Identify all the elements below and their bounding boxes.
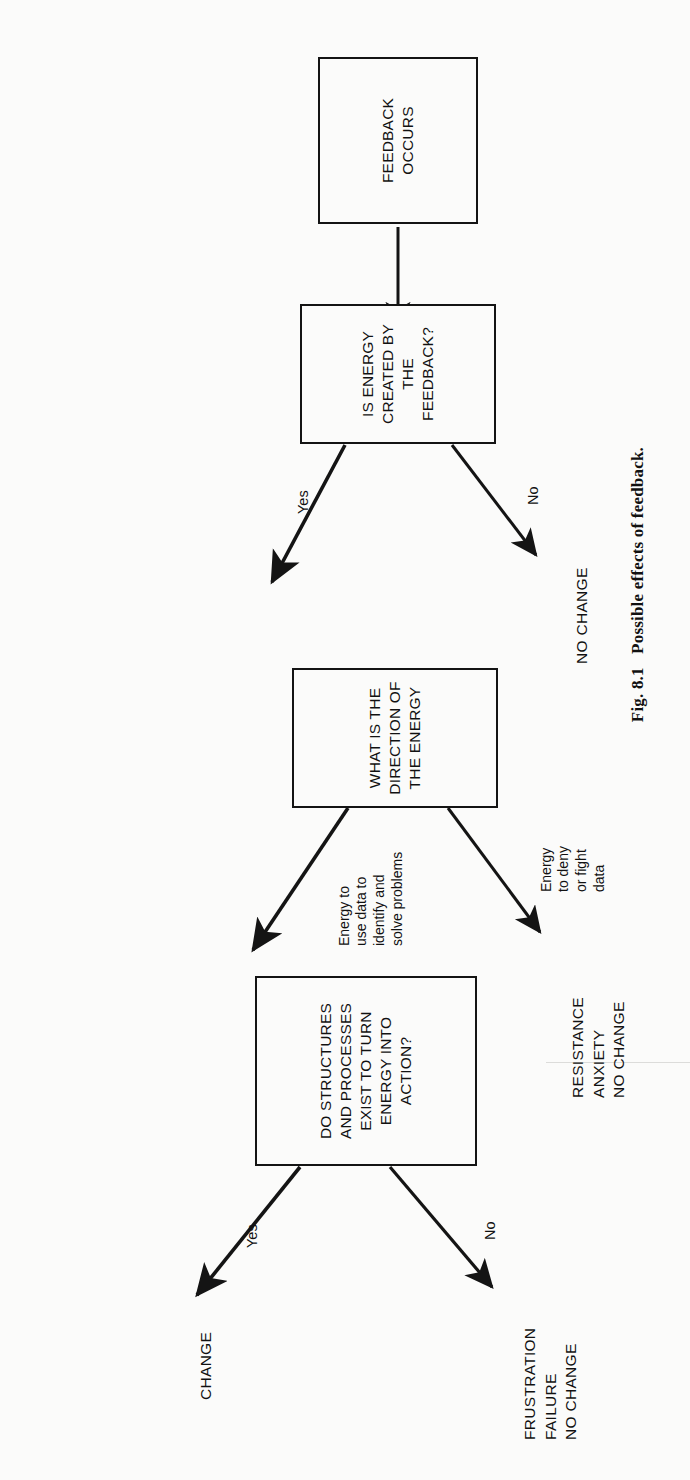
outcome-frustration-failure: FRUSTRATION FAILURE NO CHANGE [500,1250,582,1440]
node-feedback-occurs[interactable]: FEEDBACK OCCURS [318,57,478,224]
edge-label-decision2-deny: Energy to deny or fight data [520,772,608,892]
edge-label-decision1-no: No [505,486,543,505]
outcome-frustration-failure-label: FRUSTRATION FAILURE NO CHANGE [521,1328,579,1440]
outcome-no-change-label: NO CHANGE [573,567,590,664]
node-is-energy-created-label: IS ENERGY CREATED BY THE FEEDBACK? [358,306,439,442]
edge-label-decision1-yes: Yes [275,490,313,514]
outcome-resistance-anxiety: RESISTANCE ANXIETY NO CHANGE [548,918,630,1098]
node-feedback-occurs-label: FEEDBACK OCCURS [378,92,418,189]
outcome-change: CHANGE [176,1260,217,1400]
figure-caption: Fig. 8.1 Possible effects of feedback. [608,447,668,740]
node-structures-and-processes-label: DO STRUCTURES AND PROCESSES EXIST TO TUR… [316,997,417,1145]
figure-page: FEEDBACK OCCURS IS ENERGY CREATED BY THE… [0,0,690,1480]
edge-label-decision3-no: No [462,1221,500,1240]
edge-label-decision2-use-data: Energy to use data to identify and solve… [318,766,406,946]
outcome-no-change: NO CHANGE [552,494,593,664]
flowchart-canvas: FEEDBACK OCCURS IS ENERGY CREATED BY THE… [0,0,690,1480]
node-is-energy-created[interactable]: IS ENERGY CREATED BY THE FEEDBACK? [300,304,496,444]
rotated-figure-container: FEEDBACK OCCURS IS ENERGY CREATED BY THE… [0,0,690,1480]
edge-label-decision3-yes: Yes [224,1224,262,1248]
figure-caption-text: Fig. 8.1 Possible effects of feedback. [628,447,647,722]
outcome-change-label: CHANGE [197,1332,214,1400]
node-structures-and-processes[interactable]: DO STRUCTURES AND PROCESSES EXIST TO TUR… [255,976,477,1166]
outcome-resistance-anxiety-label: RESISTANCE ANXIETY NO CHANGE [569,997,627,1098]
